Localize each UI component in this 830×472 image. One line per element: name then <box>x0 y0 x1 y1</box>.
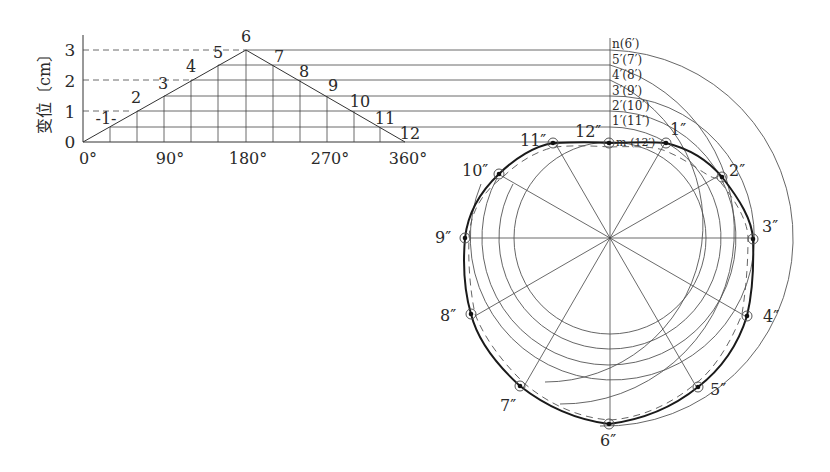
profile-label-7: 7″ <box>500 396 516 415</box>
x-tick-180: 180° <box>229 149 268 168</box>
point-label-2: 2 <box>131 88 141 107</box>
point-label-9: 9 <box>328 76 338 95</box>
profile-label-12: 12″ <box>575 122 601 141</box>
point-label-1: -1- <box>96 109 117 128</box>
x-tick-270: 270° <box>311 149 350 168</box>
ring-label-m: m-(12′) <box>616 136 655 149</box>
point-label-7: 7 <box>274 47 284 66</box>
ring-label-1: 1′(11′) <box>612 114 650 128</box>
point-label-4: 4 <box>186 57 196 76</box>
y-tick-2: 2 <box>65 71 76 91</box>
ring-label-2: 2′(10′) <box>612 99 650 113</box>
profile-label-1: 1″ <box>670 120 686 139</box>
profile-label-11: 11″ <box>520 131 546 150</box>
ring-label-n: n(6′) <box>612 37 639 51</box>
profile-label-9: 9″ <box>435 228 451 247</box>
ring-label-4: 4′(8′) <box>612 68 642 82</box>
y-tick-0: 0 <box>65 132 76 152</box>
y-axis-label: 变位〔cm〕 <box>35 46 54 134</box>
ideal-profile-curve <box>469 146 748 420</box>
profile-label-8: 8″ <box>440 306 456 325</box>
point-label-12: 12 <box>400 124 420 143</box>
ring-label-3: 3′(9′) <box>612 84 642 98</box>
point-label-6: 6 <box>241 27 251 46</box>
point-label-10: 10 <box>350 92 370 111</box>
x-tick-360: 360° <box>389 149 428 168</box>
y-tick-1: 1 <box>65 102 76 122</box>
profile-label-3: 3″ <box>762 217 778 236</box>
profile-label-6: 6″ <box>600 431 616 450</box>
point-label-3: 3 <box>158 74 168 93</box>
point-label-5: 5 <box>213 43 223 62</box>
profile-label-4: 4″ <box>763 307 779 326</box>
profile-point-7 <box>515 381 525 391</box>
point-label-11: 11 <box>375 109 395 128</box>
ring-label-5: 5′(7′) <box>612 53 642 67</box>
y-tick-3: 3 <box>65 40 76 60</box>
cam-diagram: 变位〔cm〕 0 1 2 3 0° 90° 180° 270° 360° -1-… <box>0 0 830 472</box>
profile-label-2: 2″ <box>729 161 745 180</box>
x-tick-0: 0° <box>79 149 97 168</box>
profile-label-5: 5″ <box>710 380 726 399</box>
x-tick-90: 90° <box>156 149 184 168</box>
cam-construction: n(6′) 5′(7′) 4′(8′) 3′(9′) 2′(10′) 1′(11… <box>435 37 793 450</box>
profile-point-5 <box>693 382 703 392</box>
profile-point-10 <box>494 169 504 179</box>
point-label-8: 8 <box>299 62 309 81</box>
profile-label-10: 10″ <box>462 161 488 180</box>
